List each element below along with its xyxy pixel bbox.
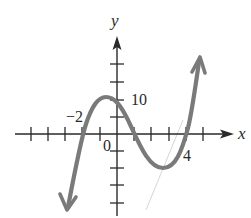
- origin-label: 0: [103, 137, 111, 154]
- y-value-10-label: 10: [131, 91, 147, 108]
- x-intercept-neg2-label: −2: [66, 108, 83, 125]
- y-axis: [110, 36, 124, 216]
- function-graph: y x 0 −2 10 4: [0, 0, 251, 218]
- graph-canvas: y x 0 −2 10 4: [0, 0, 251, 218]
- x-axis: [15, 127, 234, 141]
- y-axis-label: y: [109, 11, 119, 30]
- x-intercept-4-label: 4: [183, 147, 191, 164]
- x-axis-label: x: [237, 124, 246, 143]
